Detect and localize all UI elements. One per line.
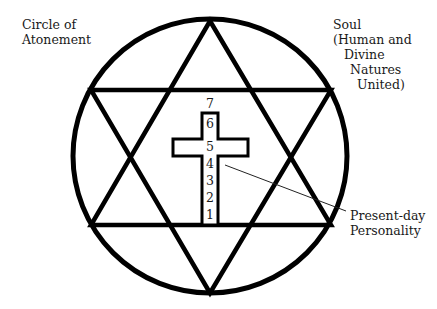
- label-line: Present-day: [350, 208, 425, 223]
- label-line: Personality: [350, 223, 425, 238]
- present-day-personality-label: Present-day Personality: [350, 208, 425, 238]
- personality-pointer-line: [225, 165, 346, 211]
- label-line: Atonement: [22, 32, 91, 47]
- label-line: Natures: [350, 62, 412, 77]
- circle-of-atonement-label: Circle of Atonement: [22, 17, 91, 47]
- level-6: 6: [206, 116, 214, 131]
- level-1: 1: [206, 207, 214, 222]
- level-4: 4: [206, 156, 214, 171]
- level-5: 5: [206, 139, 214, 154]
- soul-label: Soul (Human and Divine Natures United): [333, 17, 412, 92]
- label-line: Circle of: [22, 17, 91, 32]
- label-line: Soul: [333, 17, 361, 32]
- level-3: 3: [206, 173, 214, 188]
- level-2: 2: [206, 190, 214, 205]
- label-line: United): [357, 77, 412, 92]
- level-7: 7: [206, 96, 214, 111]
- label-line: (Human and: [333, 32, 412, 47]
- label-line: Divine: [344, 47, 412, 62]
